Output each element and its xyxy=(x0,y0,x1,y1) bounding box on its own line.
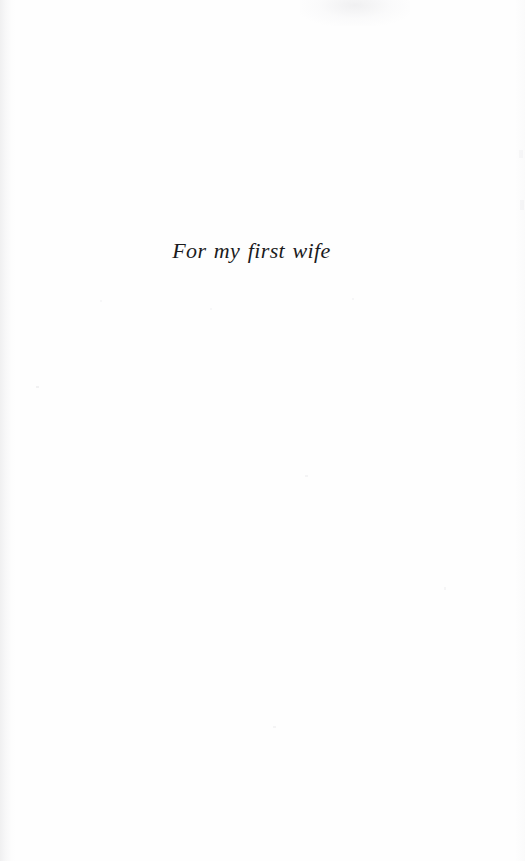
scan-gutter-left-artifact xyxy=(0,0,16,861)
scan-gutter-right-artifact xyxy=(515,0,525,861)
dedication-page: For my first wife xyxy=(0,0,525,861)
scan-smudge-top-artifact xyxy=(300,0,410,26)
dedication-text: For my first wife xyxy=(172,236,331,266)
dedication-block: For my first wife xyxy=(0,236,503,266)
scan-fleck-artifacts xyxy=(0,0,525,861)
